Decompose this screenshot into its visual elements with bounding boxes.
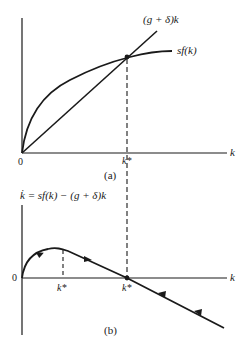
steady-state-point-a — [125, 55, 130, 60]
origin-label-b: 0 — [12, 273, 17, 283]
saving-curve — [22, 51, 172, 153]
x-axis-label-b: k — [230, 272, 235, 283]
x-axis-label-a: k — [230, 147, 235, 158]
arrow-right-icon — [36, 252, 44, 259]
y-axis-label-b: k̇ = sf(k) − (g + δ)k — [20, 190, 106, 201]
caption-b: (b) — [104, 325, 117, 336]
line-label: (g + δ)k — [143, 14, 179, 25]
kstar-right-label: k* — [122, 283, 131, 293]
curve-label: sf(k) — [177, 45, 197, 56]
origin-label-a: 0 — [18, 157, 23, 167]
kstar-left-label: k* — [57, 283, 66, 293]
solow-diagram — [0, 0, 248, 354]
steady-state-point-b — [125, 276, 130, 281]
caption-a: (a) — [104, 170, 116, 181]
kstar-label-a: k* — [122, 156, 131, 166]
break-even-investment-line — [22, 31, 157, 153]
